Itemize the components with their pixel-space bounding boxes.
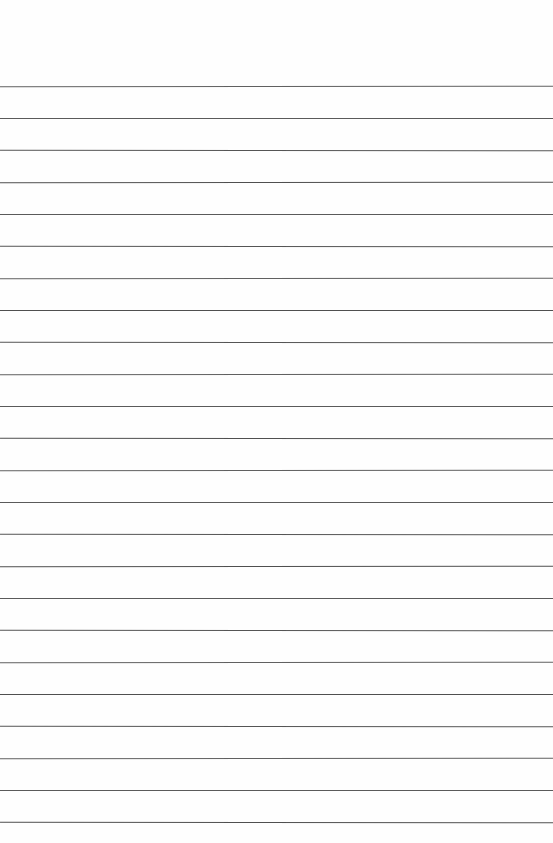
ruled-line bbox=[0, 374, 553, 406]
ruled-line bbox=[0, 246, 553, 279]
ruled-line bbox=[0, 822, 553, 843]
ruled-line bbox=[0, 598, 553, 630]
ruled-line bbox=[0, 790, 553, 822]
ruled-line bbox=[0, 150, 553, 183]
ruled-line bbox=[0, 342, 553, 375]
ruled-line bbox=[0, 278, 553, 310]
ruled-line bbox=[0, 566, 553, 598]
ruled-line bbox=[0, 310, 553, 342]
ruled-line bbox=[0, 214, 553, 246]
ruled-line bbox=[0, 438, 553, 471]
ruled-line bbox=[0, 726, 553, 759]
ruled-line bbox=[0, 662, 553, 694]
ruled-line bbox=[0, 630, 553, 663]
ruled-line bbox=[0, 694, 553, 726]
notebook-page bbox=[0, 0, 553, 843]
ruled-line bbox=[0, 470, 553, 502]
ruled-line bbox=[0, 502, 553, 534]
ruled-line bbox=[0, 182, 553, 214]
ruled-lines-container bbox=[0, 0, 553, 843]
ruled-line bbox=[0, 118, 553, 150]
ruled-line bbox=[0, 758, 553, 790]
ruled-line bbox=[0, 534, 553, 567]
ruled-line bbox=[0, 406, 553, 438]
ruled-line bbox=[0, 86, 553, 118]
